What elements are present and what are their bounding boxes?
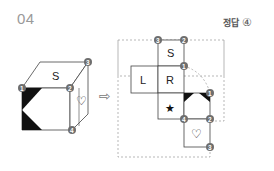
svg-text:3: 3 bbox=[86, 59, 90, 66]
star-icon: ★ bbox=[165, 102, 175, 115]
dashed-boundary-right bbox=[210, 40, 224, 121]
svg-text:4: 4 bbox=[70, 127, 74, 134]
svg-text:2: 2 bbox=[68, 85, 72, 92]
svg-text:2: 2 bbox=[208, 116, 212, 123]
svg-text:2: 2 bbox=[182, 37, 186, 44]
svg-text:1: 1 bbox=[20, 85, 24, 92]
net-label-s: S bbox=[167, 47, 174, 59]
net-label-r: R bbox=[166, 74, 174, 86]
fold-arc bbox=[184, 66, 210, 93]
svg-text:1: 1 bbox=[182, 63, 186, 70]
diagram-canvas: S ♡ 1 2 3 4 ⇨ S L R ★ ♡ 3 2 1 1 4 2 3 bbox=[0, 0, 274, 171]
svg-text:3: 3 bbox=[208, 144, 212, 151]
arrow-right-icon: ⇨ bbox=[99, 88, 111, 104]
svg-text:1: 1 bbox=[208, 90, 212, 97]
net-heart-icon: ♡ bbox=[191, 127, 202, 141]
svg-text:4: 4 bbox=[182, 116, 186, 123]
svg-text:3: 3 bbox=[156, 37, 160, 44]
cube-top-label: S bbox=[52, 70, 59, 82]
net-label-l: L bbox=[140, 74, 146, 86]
cube-heart-icon: ♡ bbox=[76, 94, 87, 108]
